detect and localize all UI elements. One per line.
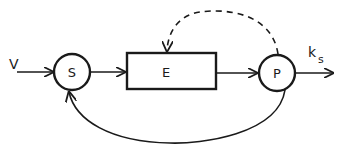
output-label-k: k <box>308 44 317 60</box>
node-s-label: S <box>68 65 76 80</box>
node-s: S <box>54 54 90 90</box>
node-e-label: E <box>162 65 170 80</box>
feedback-diagram: V S E P k s <box>0 0 342 149</box>
input-label-v: V <box>9 56 19 72</box>
node-e-box <box>127 53 216 89</box>
node-p-label: P <box>273 66 281 81</box>
edge-p-to-e-dashed <box>167 11 278 54</box>
node-p: P <box>259 55 295 91</box>
node-e: E <box>127 53 216 89</box>
edge-p-to-s-feedback <box>69 90 285 143</box>
output-label-subscript-s: s <box>318 53 324 66</box>
